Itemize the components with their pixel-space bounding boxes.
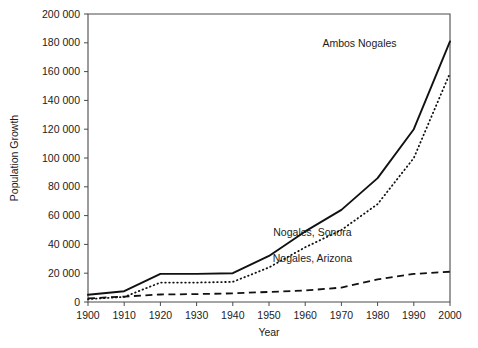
y-axis-title: Population Growth [8, 115, 20, 202]
x-tick-label: 1900 [76, 309, 100, 321]
y-tick-label: 20 000 [48, 267, 80, 279]
series-line-nogales-arizona [88, 272, 450, 299]
y-tick-label: 60 000 [48, 209, 80, 221]
series-line-nogales-sonora [88, 73, 450, 299]
x-tick-label: 1960 [294, 309, 318, 321]
x-tick-label: 1950 [257, 309, 281, 321]
x-axis-title: Year [258, 326, 280, 338]
y-tick-label: 140 000 [42, 94, 80, 106]
series-label-nogales-sonora: Nogales, Sonora [273, 226, 351, 238]
y-tick-label: 0 [74, 296, 80, 308]
x-tick-label: 1990 [402, 309, 426, 321]
y-tick-label: 100 000 [42, 152, 80, 164]
plot-frame [88, 14, 450, 302]
x-tick-label: 1930 [185, 309, 209, 321]
y-axis-tick-labels: 020 00040 00060 00080 000100 000120 0001… [42, 8, 80, 308]
x-tick-label: 1980 [366, 309, 390, 321]
y-tick-label: 120 000 [42, 123, 80, 135]
population-growth-chart: 020 00040 00060 00080 000100 000120 0001… [0, 0, 478, 348]
x-axis-tick-labels: 1900191019201930194019501960197019801990… [76, 309, 462, 321]
x-tick-label: 1970 [330, 309, 354, 321]
x-tick-label: 1940 [221, 309, 245, 321]
chart-canvas: 020 00040 00060 00080 000100 000120 0001… [0, 0, 478, 348]
x-axis-ticks [88, 302, 450, 306]
x-tick-label: 1910 [113, 309, 137, 321]
y-tick-label: 200 000 [42, 8, 80, 20]
y-axis-ticks [84, 14, 88, 302]
series-line-ambos-nogales [88, 41, 450, 294]
y-tick-label: 180 000 [42, 36, 80, 48]
x-tick-label: 2000 [438, 309, 462, 321]
series-label-nogales-arizona: Nogales, Arizona [273, 252, 353, 264]
y-tick-label: 160 000 [42, 65, 80, 77]
x-tick-label: 1920 [149, 309, 173, 321]
series-label-ambos-nogales: Ambos Nogales [322, 37, 396, 49]
y-tick-label: 80 000 [48, 180, 80, 192]
y-tick-label: 40 000 [48, 238, 80, 250]
